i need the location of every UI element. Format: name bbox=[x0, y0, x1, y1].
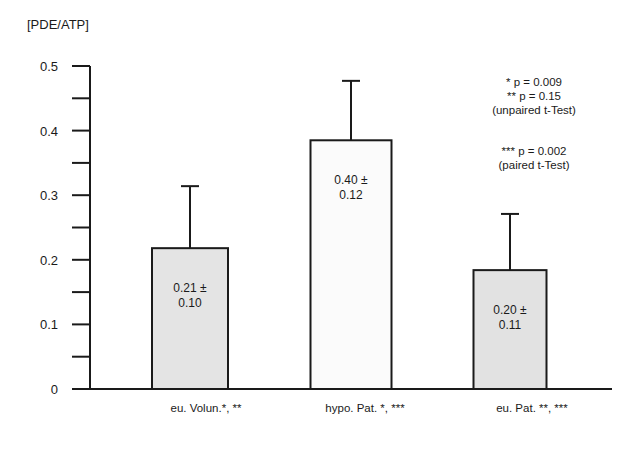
annotations: * p = 0.009** p = 0.15(unpaired t-Test)*… bbox=[492, 76, 576, 171]
category-labels: eu. Volun.*, **hypo. Pat. *, ***eu. Pat.… bbox=[171, 402, 569, 414]
y-tick-label: 0.1 bbox=[40, 317, 58, 332]
bar-chart: [PDE/ATP] 00.10.20.30.40.5 0.21 ±0.100.4… bbox=[0, 0, 630, 459]
y-tick-label: 0.4 bbox=[40, 124, 58, 139]
y-axis-label: [PDE/ATP] bbox=[27, 17, 89, 32]
bar-error-label: 0.11 bbox=[499, 318, 522, 332]
bar-value-label: 0.20 ± bbox=[493, 303, 527, 317]
bars: 0.21 ±0.100.40 ±0.120.20 ±0.11 bbox=[152, 81, 547, 389]
x-tick-label: eu. Pat. **, *** bbox=[496, 402, 568, 414]
annotation: *** p = 0.002 bbox=[502, 145, 567, 157]
annotation: (unpaired t-Test) bbox=[492, 104, 576, 116]
bar-error-label: 0.12 bbox=[339, 188, 363, 202]
y-tick-label: 0.2 bbox=[40, 253, 58, 268]
annotation: ** p = 0.15 bbox=[507, 90, 561, 102]
bar-value-label: 0.21 ± bbox=[173, 281, 207, 295]
annotation: * p = 0.009 bbox=[506, 76, 562, 88]
bar-value-label: 0.40 ± bbox=[334, 173, 368, 187]
y-tick-label: 0.3 bbox=[40, 188, 58, 203]
y-tick-label: 0 bbox=[51, 382, 58, 397]
x-tick-label: hypo. Pat. *, *** bbox=[325, 402, 405, 414]
x-tick-label: eu. Volun.*, ** bbox=[171, 402, 242, 414]
bar-error-label: 0.10 bbox=[178, 296, 202, 310]
y-tick-label: 0.5 bbox=[40, 59, 58, 74]
annotation: (paired t-Test) bbox=[499, 159, 570, 171]
bar bbox=[152, 248, 228, 389]
